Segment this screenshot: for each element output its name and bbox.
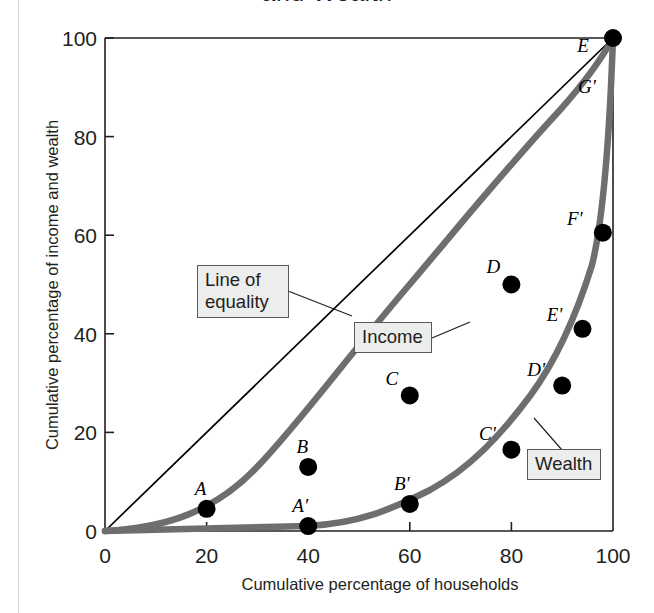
curve-label-g-prime: G' xyxy=(578,76,597,97)
y-axis-tick-labels: 100 80 60 40 20 0 xyxy=(62,27,97,543)
data-point-label-c: C xyxy=(385,368,398,389)
data-point-label-b-prime: B' xyxy=(394,473,411,494)
data-point-label-a-prime: A' xyxy=(290,495,309,516)
callout-line-of-equality: Line of equality xyxy=(197,265,289,318)
y-axis-ticks xyxy=(105,38,114,432)
data-point-b-prime xyxy=(401,495,419,513)
x-tick-label-0: 0 xyxy=(99,544,111,567)
data-point-label-a: A xyxy=(193,478,207,499)
data-point-e-prime xyxy=(574,320,592,338)
data-point-label-d: D xyxy=(486,256,501,277)
data-point-c xyxy=(401,386,419,404)
y-tick-label-40: 40 xyxy=(74,323,97,346)
y-tick-label-20: 20 xyxy=(74,421,97,444)
x-tick-label-60: 60 xyxy=(398,544,421,567)
data-point-d-prime xyxy=(553,377,571,395)
chart-canvas: 100 80 60 40 20 0 0 20 40 60 80 100 Cumu… xyxy=(0,0,654,613)
data-point-label-b: B xyxy=(296,436,308,457)
callout-income: Income xyxy=(354,322,432,353)
data-point-label-e: E xyxy=(576,35,589,56)
data-point-b xyxy=(299,458,317,476)
y-axis-title: Cumulative percentage of income and weal… xyxy=(43,120,61,450)
x-tick-label-80: 80 xyxy=(500,544,523,567)
data-point-e xyxy=(604,29,622,47)
data-point-label-c-prime: C' xyxy=(479,423,497,444)
leader-wealth xyxy=(534,418,562,450)
data-point-c-prime xyxy=(502,441,520,459)
y-tick-label-60: 60 xyxy=(74,224,97,247)
x-axis-tick-labels: 0 20 40 60 80 100 xyxy=(99,544,630,567)
callout-line-of-equality-line1: Line of xyxy=(205,269,281,291)
callout-leader-lines xyxy=(288,291,562,450)
x-tick-label-40: 40 xyxy=(297,544,320,567)
y-tick-label-0: 0 xyxy=(85,520,97,543)
lorenz-curve-figure: and Wealth 100 80 60 40 20 0 xyxy=(0,0,654,613)
callout-wealth: Wealth xyxy=(527,449,601,480)
data-point-label-f-prime: F' xyxy=(566,208,584,229)
y-tick-label-80: 80 xyxy=(74,126,97,149)
callout-line-of-equality-line2: equality xyxy=(205,291,281,313)
data-point-d xyxy=(502,276,520,294)
callout-wealth-label: Wealth xyxy=(535,453,593,475)
x-axis-title: Cumulative percentage of households xyxy=(241,575,518,593)
leader-income xyxy=(432,322,470,338)
data-point-label-d-prime: D' xyxy=(526,359,546,380)
data-point-f-prime xyxy=(594,224,612,242)
x-tick-label-20: 20 xyxy=(195,544,218,567)
callout-income-label: Income xyxy=(362,326,424,348)
leader-line-of-equality xyxy=(288,291,352,316)
data-point-label-e-prime: E' xyxy=(546,304,564,325)
y-tick-label-100: 100 xyxy=(62,27,97,50)
data-point-a-prime xyxy=(299,517,317,535)
x-tick-label-100: 100 xyxy=(595,544,630,567)
data-point-a xyxy=(198,500,216,518)
